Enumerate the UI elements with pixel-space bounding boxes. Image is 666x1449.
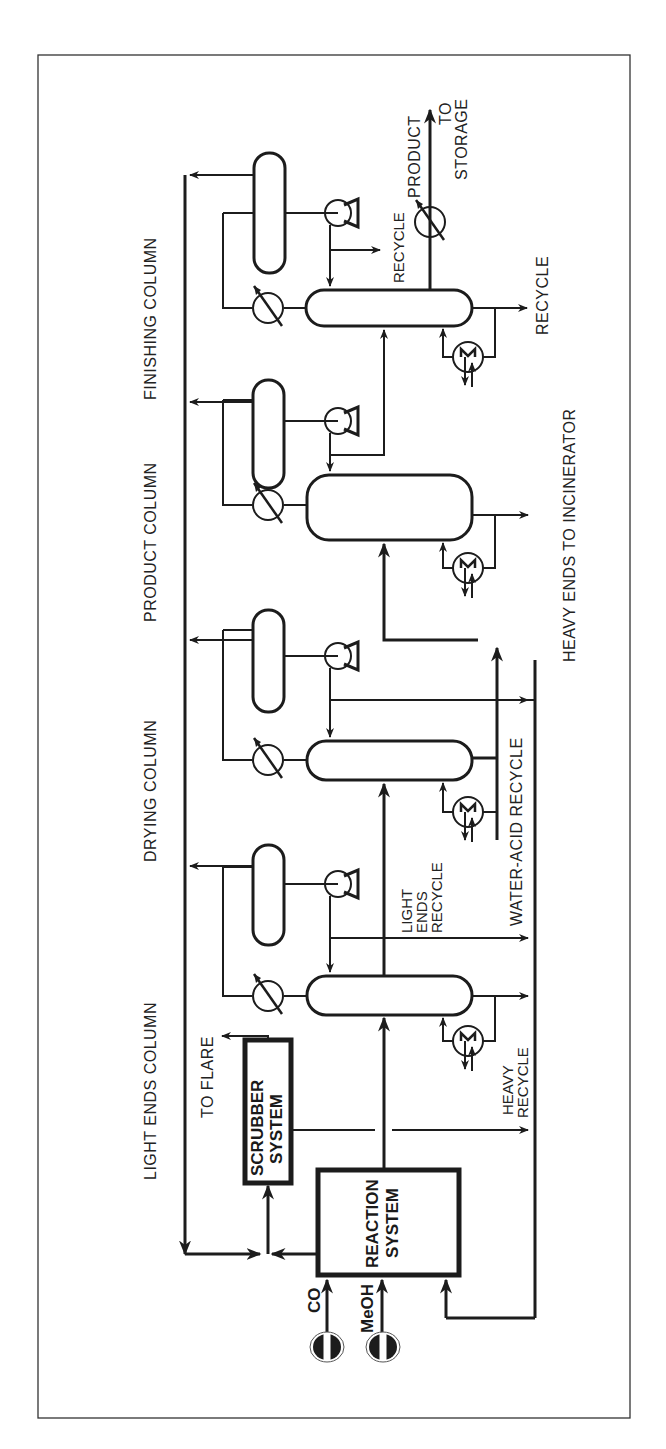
svg-text:START: START [380,1339,386,1355]
svg-text:REACTION: REACTION [363,1179,382,1268]
label-finishing-overhead-recycle: RECYCLE [390,212,407,283]
label-water-acid-recycle: WATER-ACID RECYCLE [508,737,525,926]
label-product: PRODUCT [406,115,423,198]
svg-text:SYSTEM: SYSTEM [267,1094,286,1164]
label-to-flare: TO FLARE [199,1036,216,1118]
label-heavy-recycle-2: RECYCLE [514,1047,531,1118]
scrubber-system: SCRUBBER SYSTEM [222,1036,528,1183]
label-light-ends-recycle-3: RECYCLE [428,862,445,933]
svg-text:SYSTEM: SYSTEM [383,1188,402,1258]
label-finishing-bottoms-recycle: RECYCLE [534,256,551,335]
section-label-product: PRODUCT COLUMN [142,462,159,622]
label-to-storage-1: TO [437,102,454,125]
svg-text:SCRUBBER: SCRUBBER [248,1080,267,1176]
feed-meoh: START MeOH [358,1280,400,1362]
product-column [190,330,528,640]
finishing-column [190,110,527,387]
svg-text:MeOH: MeOH [358,1284,377,1333]
svg-text:START: START [324,1339,330,1355]
feed-co: START CO [305,1280,344,1362]
process-flow-diagram: LIGHT ENDS COLUMN DRYING COLUMN PRODUCT … [0,0,666,1449]
light-ends-column [190,784,528,1071]
label-heavy-ends-incinerator: HEAVY ENDS TO INCINERATOR [561,409,578,662]
reaction-system: REACTION SYSTEM [318,1170,459,1275]
label-to-storage-2: STORAGE [453,99,470,180]
section-label-drying: DRYING COLUMN [142,720,159,862]
svg-text:CO: CO [305,1288,324,1314]
section-label-finishing: FINISHING COLUMN [142,237,159,400]
section-label-light-ends: LIGHT ENDS COLUMN [142,1002,159,1180]
